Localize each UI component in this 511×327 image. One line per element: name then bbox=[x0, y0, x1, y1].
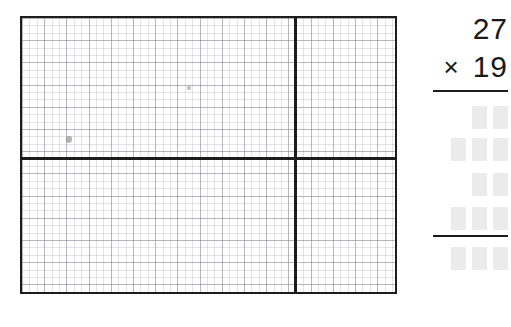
answer-row-partial-product-carry bbox=[414, 106, 511, 129]
digit-box[interactable] bbox=[472, 207, 487, 230]
digit-box[interactable] bbox=[451, 138, 466, 161]
digit-box[interactable] bbox=[493, 207, 508, 230]
answer-row-partial-product-carry-2 bbox=[414, 173, 511, 196]
grid-vertical-divider bbox=[294, 18, 297, 292]
digit-box[interactable] bbox=[451, 207, 466, 230]
pencil-smudge-mark bbox=[66, 136, 72, 143]
multiplication-problem: 27 × 19 bbox=[414, 10, 511, 320]
digit-box[interactable] bbox=[493, 138, 508, 161]
pencil-dot-mark bbox=[187, 86, 191, 90]
answer-row-partial-product-second bbox=[414, 207, 511, 230]
digit-box[interactable] bbox=[472, 106, 487, 129]
multiplicand-value: 27 bbox=[473, 14, 508, 44]
digit-box[interactable] bbox=[493, 173, 508, 196]
digit-box[interactable] bbox=[493, 247, 508, 270]
graph-paper-grid bbox=[20, 16, 397, 294]
digit-box[interactable] bbox=[451, 247, 466, 270]
problem-rule-top bbox=[433, 90, 508, 92]
multiplicand-row: 27 bbox=[414, 10, 511, 48]
grid-horizontal-divider bbox=[22, 157, 395, 160]
multiplier-row: × 19 bbox=[414, 48, 511, 86]
multiplier-value: 19 bbox=[473, 52, 508, 82]
multiplication-operator-icon: × bbox=[443, 54, 459, 80]
digit-box[interactable] bbox=[472, 138, 487, 161]
digit-box[interactable] bbox=[472, 173, 487, 196]
answer-row-partial-product-first bbox=[414, 138, 511, 161]
answer-row-final-product bbox=[414, 247, 511, 270]
digit-box[interactable] bbox=[472, 247, 487, 270]
digit-box[interactable] bbox=[493, 106, 508, 129]
problem-rule-bottom bbox=[433, 235, 508, 237]
